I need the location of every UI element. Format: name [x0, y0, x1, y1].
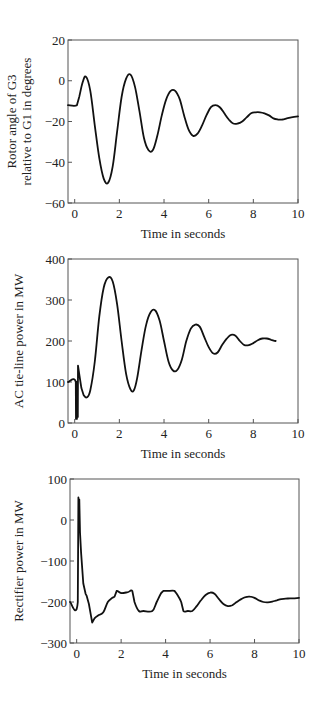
- rectifier-power-chart: 1000−100−200−3000246810Time in secondsRe…: [11, 472, 306, 682]
- x-tick-label: 8: [250, 426, 257, 441]
- x-tick-label: 4: [162, 646, 169, 661]
- x-tick-label: 4: [161, 206, 168, 221]
- y-axis-label: AC tie-line power in MW: [11, 273, 26, 408]
- y-tick-label: 400: [46, 252, 66, 267]
- x-tick-label: 10: [293, 646, 306, 661]
- y-tick-label: −60: [45, 196, 65, 211]
- x-tick-label: 2: [116, 426, 123, 441]
- y-tick-label: 200: [46, 334, 66, 349]
- rotor-angle-chart: 200−20−40−600246810Time in secondsRotor …: [4, 33, 305, 242]
- y-tick-label: 100: [48, 472, 68, 487]
- plot-frame: [70, 479, 299, 643]
- x-tick-label: 6: [205, 206, 212, 221]
- x-tick-label: 0: [73, 646, 80, 661]
- x-tick-label: 0: [71, 426, 78, 441]
- x-tick-label: 6: [205, 426, 212, 441]
- data-series-line: [68, 74, 298, 183]
- plot-frame: [68, 40, 298, 203]
- y-tick-label: 100: [46, 375, 66, 390]
- data-series-line: [70, 498, 299, 623]
- y-axis-label: Rectifier power in MW: [11, 499, 26, 621]
- figure-three-time-series-plots: 200−20−40−600246810Time in secondsRotor …: [0, 0, 325, 701]
- y-tick-label: −100: [40, 554, 67, 569]
- y-tick-label: 0: [61, 513, 68, 528]
- y-tick-label: 300: [46, 293, 66, 308]
- y-axis-label: relative to G1 in degrees: [19, 58, 34, 186]
- x-axis-label: Time in seconds: [141, 446, 226, 461]
- x-axis-label: Time in seconds: [141, 226, 226, 241]
- y-axis-label: Rotor angle of G3: [4, 74, 19, 168]
- x-tick-label: 8: [250, 206, 257, 221]
- x-tick-label: 0: [71, 206, 78, 221]
- plot-frame: [68, 259, 298, 423]
- x-tick-label: 10: [292, 206, 305, 221]
- x-tick-label: 2: [118, 646, 125, 661]
- y-tick-label: −300: [40, 636, 67, 651]
- y-tick-label: −20: [45, 114, 65, 129]
- x-tick-label: 6: [207, 646, 214, 661]
- x-tick-label: 10: [292, 426, 305, 441]
- y-tick-label: −40: [45, 155, 65, 170]
- y-tick-label: 0: [59, 73, 66, 88]
- x-tick-label: 2: [116, 206, 123, 221]
- x-tick-label: 4: [161, 426, 168, 441]
- x-axis-label: Time in seconds: [142, 666, 227, 681]
- data-series-line: [68, 277, 276, 419]
- y-tick-label: −200: [40, 595, 67, 610]
- ac-tie-line-power-chart: 40030020010000246810Time in secondsAC ti…: [11, 252, 305, 462]
- y-tick-label: 0: [59, 416, 66, 431]
- y-tick-label: 20: [52, 33, 65, 48]
- x-tick-label: 8: [251, 646, 258, 661]
